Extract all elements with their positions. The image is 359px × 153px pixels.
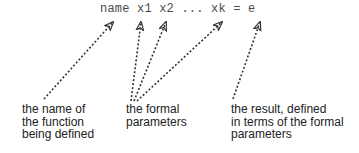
arrow-name bbox=[44, 22, 113, 99]
arrow-e bbox=[233, 22, 260, 99]
arrow-xk bbox=[137, 22, 222, 101]
label-line: the formal bbox=[126, 103, 187, 116]
label-formal-parameters: the formal parameters bbox=[126, 103, 187, 128]
label-result: the result, defined in terms of the form… bbox=[231, 103, 344, 141]
label-line: being defined bbox=[22, 128, 94, 141]
label-line: the name of bbox=[22, 103, 94, 116]
label-line: parameters bbox=[231, 128, 344, 141]
label-line: the result, defined bbox=[231, 103, 344, 116]
label-line: parameters bbox=[126, 116, 187, 129]
label-function-name: the name of the function being defined bbox=[22, 103, 94, 141]
